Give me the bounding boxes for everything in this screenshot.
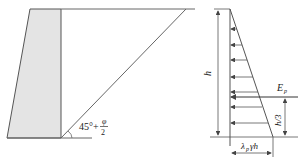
- angle-arc: [68, 131, 72, 138]
- resultant-sub: p: [283, 88, 287, 94]
- base-label-sub: p: [245, 146, 249, 152]
- angle-label: 45°+: [79, 121, 99, 132]
- angle-label-phi: φ: [102, 117, 107, 126]
- pressure-envelope: [230, 9, 273, 137]
- h-label: h: [202, 71, 213, 76]
- angle-label-two: 2: [101, 128, 105, 137]
- diagram-canvas: 45°+ φ 2 E p h h/3 λ p γh: [0, 0, 308, 168]
- h3-label: h/3: [273, 114, 283, 126]
- base-label-gamma-h: γh: [250, 141, 259, 151]
- resultant-label: E: [276, 82, 283, 93]
- base-label-lambda: λ: [240, 141, 245, 151]
- slip-plane-line: [61, 9, 186, 138]
- retaining-wall-figure: 45°+ φ 2: [7, 9, 195, 138]
- retaining-wall: [7, 9, 61, 138]
- pressure-diagram: E p h h/3 λ p γh: [202, 9, 298, 157]
